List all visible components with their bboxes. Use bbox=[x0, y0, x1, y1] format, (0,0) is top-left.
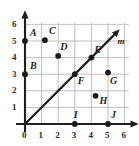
y-tick-label-2: 2 bbox=[12, 86, 17, 95]
line-m-segment bbox=[25, 34, 115, 124]
point-label-d: D bbox=[60, 42, 67, 52]
x-tick-label-3: 3 bbox=[72, 131, 77, 140]
line-label-m: m bbox=[118, 37, 125, 46]
y-axis-arrowhead-icon bbox=[21, 10, 28, 18]
y-tick-label-3: 3 bbox=[12, 70, 17, 79]
data-point-c bbox=[42, 37, 48, 43]
y-tick-label-4: 4 bbox=[12, 53, 17, 62]
x-tick-label-0: 0 bbox=[22, 131, 27, 140]
x-tick-label-2: 2 bbox=[55, 131, 60, 140]
data-point-j bbox=[105, 121, 111, 127]
data-point-b bbox=[22, 71, 28, 77]
data-point-d bbox=[55, 53, 61, 59]
x-tick-label-5: 5 bbox=[105, 131, 110, 140]
y-tick-label-5: 5 bbox=[12, 37, 17, 46]
data-point-h bbox=[93, 93, 99, 99]
data-point-i bbox=[72, 121, 78, 127]
x-tick-label-4: 4 bbox=[88, 131, 93, 140]
point-label-e: E bbox=[94, 45, 101, 55]
y-tick-label-6: 6 bbox=[12, 20, 17, 29]
y-tick-label-1: 1 bbox=[12, 103, 17, 112]
point-label-a: A bbox=[30, 28, 37, 38]
graph-line-m bbox=[25, 29, 120, 124]
point-label-g: G bbox=[110, 76, 117, 86]
point-label-h: H bbox=[100, 96, 108, 106]
point-label-j: J bbox=[111, 110, 116, 120]
x-tick-label-1: 1 bbox=[39, 131, 44, 140]
point-label-c: C bbox=[49, 26, 56, 36]
point-label-i: I bbox=[74, 110, 78, 120]
data-point-a bbox=[22, 38, 28, 44]
point-label-b: B bbox=[30, 61, 37, 71]
coordinate-plane-figure: 0123456 123456 ABCDEFGHIJ m bbox=[0, 0, 139, 146]
x-axis-arrowhead-icon bbox=[131, 120, 139, 127]
data-point-e bbox=[89, 55, 95, 61]
x-tick-label-6: 6 bbox=[122, 131, 127, 140]
coordinate-plane-svg bbox=[0, 0, 139, 146]
point-label-f: F bbox=[78, 76, 85, 86]
